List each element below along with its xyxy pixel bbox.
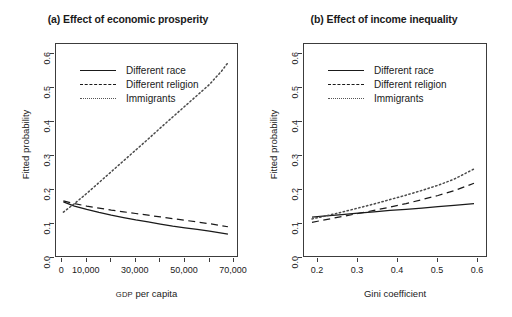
y-tick-label: 0.6: [290, 52, 300, 80]
legend-item-immigrants: Immigrants: [80, 92, 230, 106]
legend-key-dashed-line: [80, 84, 116, 87]
x-tick-mark: [477, 258, 478, 262]
y-tick-label: 0.4: [42, 120, 52, 148]
panel-a-y-axis-title: Fitted probability: [20, 90, 31, 200]
panel-b-legend: Different race Different religion Immigr…: [328, 64, 478, 106]
y-tick-label: 0.4: [290, 120, 300, 148]
panel-a-economic-prosperity: (a) Effect of economic prosperity Fitted…: [0, 0, 256, 317]
legend-key-solid-line: [328, 70, 364, 73]
panel-b-x-axis-title: Gini coefficient: [303, 288, 487, 299]
series-line-different-religion: [63, 201, 228, 227]
x-tick-mark: [397, 258, 398, 262]
legend-item-immigrants: Immigrants: [328, 92, 478, 106]
y-tick-label: 0.2: [42, 188, 52, 216]
legend-item-different-religion: Different religion: [80, 78, 230, 92]
y-tick-label: 0.1: [42, 222, 52, 250]
legend-item-different-race: Different race: [80, 64, 230, 78]
legend-item-different-religion: Different religion: [328, 78, 478, 92]
panel-a-x-axis-title: GDP per capita: [55, 288, 238, 299]
x-tick-mark: [86, 258, 87, 262]
x-tick-mark: [437, 258, 438, 262]
legend-label-different-race: Different race: [126, 64, 186, 78]
panel-b-y-axis-title: Fitted probability: [268, 90, 279, 200]
legend-key-dashed-line: [328, 84, 364, 87]
y-tick-label: 0.3: [290, 154, 300, 182]
panel-a-x-axis-title-gdp: GDP: [116, 290, 133, 299]
legend-label-immigrants: Immigrants: [374, 92, 423, 106]
x-tick-mark: [317, 258, 318, 262]
x-tick-mark: [184, 258, 185, 262]
y-tick-label: 0.3: [42, 154, 52, 182]
legend-key-dotted-line: [80, 98, 116, 101]
legend-item-different-race: Different race: [328, 64, 478, 78]
series-line-different-race: [312, 204, 474, 218]
panel-a-legend: Different race Different religion Immigr…: [80, 64, 230, 106]
x-tick-mark: [135, 258, 136, 262]
y-tick-label: 0.1: [290, 222, 300, 250]
legend-label-different-religion: Different religion: [126, 78, 199, 92]
panel-a-x-axis-title-rest: per capita: [133, 288, 177, 299]
legend-label-immigrants: Immigrants: [126, 92, 175, 106]
x-tick-mark: [209, 258, 210, 262]
legend-key-solid-line: [80, 70, 116, 73]
figure-two-panel-chart: (a) Effect of economic prosperity Fitted…: [0, 0, 512, 317]
x-tick-label: 70,000: [203, 265, 263, 275]
x-tick-mark: [357, 258, 358, 262]
x-tick-mark: [110, 258, 111, 262]
panel-a-title: (a) Effect of economic prosperity: [0, 13, 256, 25]
panel-b-income-inequality: (b) Effect of income inequality Fitted p…: [256, 0, 512, 317]
series-line-immigrants: [312, 169, 474, 219]
panel-b-title: (b) Effect of income inequality: [256, 13, 512, 25]
x-tick-mark: [61, 258, 62, 262]
x-tick-mark: [233, 258, 234, 262]
legend-label-different-race: Different race: [374, 64, 434, 78]
series-line-different-religion: [312, 183, 474, 222]
y-tick-label: 0.5: [42, 86, 52, 114]
y-tick-label: 0.5: [290, 86, 300, 114]
legend-key-dotted-line: [328, 98, 364, 101]
x-tick-mark: [159, 258, 160, 262]
y-tick-label: 0.2: [290, 188, 300, 216]
legend-label-different-religion: Different religion: [374, 78, 447, 92]
y-tick-label: 0.6: [42, 52, 52, 80]
x-tick-label: 0.6: [447, 265, 507, 275]
